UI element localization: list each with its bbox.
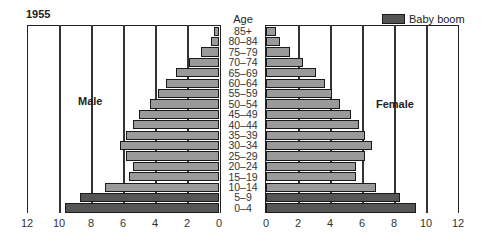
female-bar [266,183,376,192]
gridline [394,25,396,213]
legend: Baby boom [382,13,465,25]
male-bar [211,37,219,46]
x-tick-male: 0 [207,217,231,229]
x-tick-male: 12 [15,217,39,229]
male-label: Male [78,95,102,107]
male-bar [126,151,219,160]
female-bar [266,172,356,181]
female-bar [266,151,365,160]
female-bar [266,79,325,88]
female-bar [266,110,351,119]
female-bar [266,47,290,56]
gridline [59,25,61,213]
male-bar [139,110,219,119]
female-bar [266,141,372,150]
x-tick-female: 10 [414,217,438,229]
male-bar [105,183,219,192]
male-bar [120,141,219,150]
legend-label: Baby boom [409,13,465,25]
female-bar [266,37,280,46]
female-bar [266,162,356,171]
male-bar [133,162,219,171]
x-tick-female: 6 [350,217,374,229]
male-bar [80,193,219,202]
age-label: 0–4 [222,203,264,213]
male-bar [158,89,219,98]
x-tick-female: 2 [286,217,310,229]
female-bar [266,99,340,108]
x-tick-female: 8 [382,217,406,229]
male-bar [176,68,219,77]
male-bar [166,79,219,88]
age-header: Age [222,13,264,25]
x-tick-female: 0 [254,217,278,229]
x-tick-male: 10 [47,217,71,229]
x-tick-male: 6 [111,217,135,229]
chart-title: 1955 [26,8,50,20]
x-tick-male: 8 [79,217,103,229]
female-bar [266,68,316,77]
male-bar [129,172,219,181]
male-bar [126,131,219,140]
x-tick-male: 4 [143,217,167,229]
female-bar [266,203,416,212]
female-bar [266,27,276,36]
gridline [91,25,93,213]
female-bar [266,89,332,98]
male-bar [201,47,219,56]
female-label: Female [376,98,414,110]
legend-swatch-baby-boom [382,14,405,24]
x-tick-female: 4 [318,217,342,229]
male-bar [150,99,219,108]
male-bar [189,58,219,67]
female-bar [266,120,359,129]
female-bar [266,131,365,140]
gridline [426,25,428,213]
male-bar [133,120,219,129]
male-bar [214,27,219,36]
female-bar [266,58,303,67]
female-bar [266,193,400,202]
x-tick-male: 2 [175,217,199,229]
x-tick-female: 12 [446,217,470,229]
male-bar [65,203,219,212]
